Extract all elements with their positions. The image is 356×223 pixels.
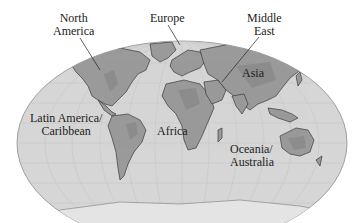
label-europe: Europe xyxy=(150,12,185,25)
label-latin-america: Latin America/ Caribbean xyxy=(30,112,102,138)
label-oceania: Oceania/ Australia xyxy=(230,143,274,169)
label-line: Caribbean xyxy=(30,125,102,138)
label-line: East xyxy=(247,25,282,38)
label-line: America xyxy=(53,25,94,38)
label-north-america: North America xyxy=(53,12,94,38)
label-line: Australia xyxy=(230,156,274,169)
label-africa: Africa xyxy=(157,125,188,138)
label-middle-east: Middle East xyxy=(247,12,282,38)
label-asia: Asia xyxy=(242,67,264,80)
